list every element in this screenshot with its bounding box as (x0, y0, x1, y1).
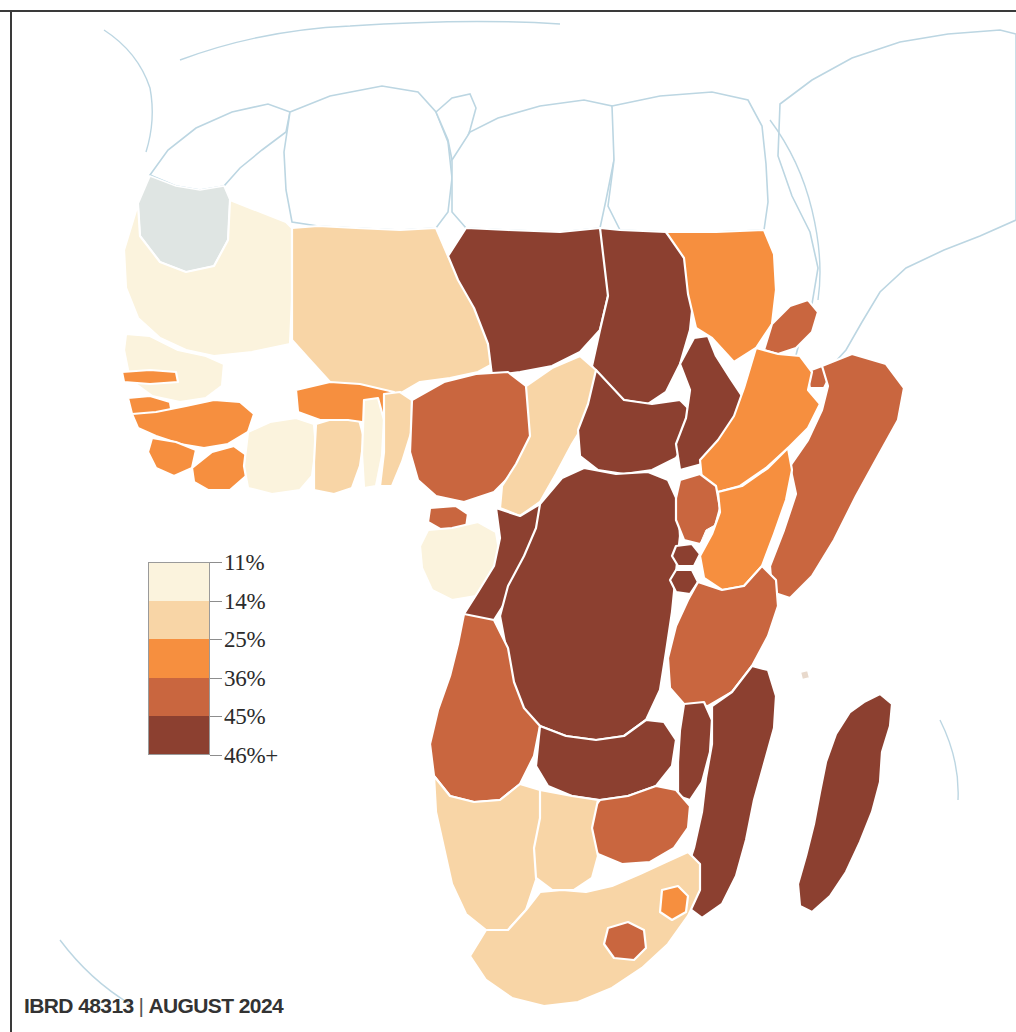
region-lesotho[interactable] (604, 922, 646, 960)
caption-separator: | (134, 994, 149, 1017)
legend-tick-2 (210, 639, 222, 640)
caption-date: AUGUST 2024 (148, 994, 283, 1017)
region-algeria[interactable] (284, 86, 452, 230)
legend-label-4: 45% (224, 705, 265, 728)
region-comoros (800, 670, 810, 680)
legend-label-5: 46%+ (224, 744, 278, 767)
legend-label-1: 14% (224, 589, 265, 612)
map-page: 11% 14% 25% 36% 45% 46%+ IBRD 48313|AUGU… (0, 0, 1016, 1032)
caption-ibrd-id: IBRD 48313 (24, 994, 134, 1017)
legend-label-2: 25% (224, 628, 265, 651)
legend-band-11 (149, 563, 209, 601)
caption: IBRD 48313|AUGUST 2024 (24, 994, 283, 1018)
legend-tick-4 (210, 716, 222, 717)
legend-tick-0 (210, 562, 222, 563)
region-ghana[interactable] (314, 416, 364, 494)
legend-band-46plus (149, 716, 209, 754)
region-arabian-peninsula (778, 30, 1016, 386)
region-rwanda[interactable] (672, 544, 700, 566)
legend: 11% 14% 25% 36% 45% 46%+ (148, 562, 298, 762)
coast-hint-med (180, 21, 560, 60)
region-gambia[interactable] (122, 370, 178, 384)
legend-band-36 (149, 678, 209, 716)
legend-tick-5 (210, 755, 222, 756)
legend-label-3: 36% (224, 666, 265, 689)
region-chad[interactable] (592, 228, 694, 404)
legend-band-25 (149, 639, 209, 677)
region-egypt[interactable] (608, 92, 768, 232)
region-morocco[interactable] (150, 104, 290, 190)
africa-map[interactable] (0, 0, 1016, 1032)
region-botswana[interactable] (534, 790, 598, 890)
legend-label-0: 11% (224, 551, 264, 574)
region-benin[interactable] (380, 392, 412, 486)
coast-hint-se (940, 720, 958, 800)
coast-hint-nw (104, 30, 152, 152)
region-cote-divoire[interactable] (244, 418, 316, 494)
region-madagascar[interactable] (798, 694, 892, 912)
legend-band-14 (149, 601, 209, 639)
legend-tick-3 (210, 678, 222, 679)
legend-swatch-column (148, 562, 210, 755)
legend-tick-1 (210, 601, 222, 602)
region-liberia[interactable] (192, 446, 248, 490)
region-libya[interactable] (452, 100, 620, 232)
